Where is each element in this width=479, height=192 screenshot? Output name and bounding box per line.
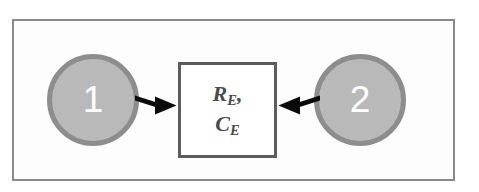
element-symbol-C: C — [215, 111, 230, 136]
diagram-canvas: 1 2 RE, CE — [0, 0, 479, 192]
element-subscript-C: E — [230, 122, 240, 138]
node-1-label: 1 — [83, 81, 104, 118]
node-circle-2: 2 — [314, 54, 406, 146]
element-box-line-2: CE — [215, 112, 239, 138]
element-box: RE, CE — [178, 62, 277, 158]
node-2-label: 2 — [350, 81, 371, 118]
element-symbol-R: R — [213, 81, 228, 106]
element-comma: , — [237, 81, 243, 106]
element-box-line-1: RE, — [213, 82, 243, 108]
node-circle-1: 1 — [47, 54, 139, 146]
element-subscript-R: E — [227, 92, 237, 108]
